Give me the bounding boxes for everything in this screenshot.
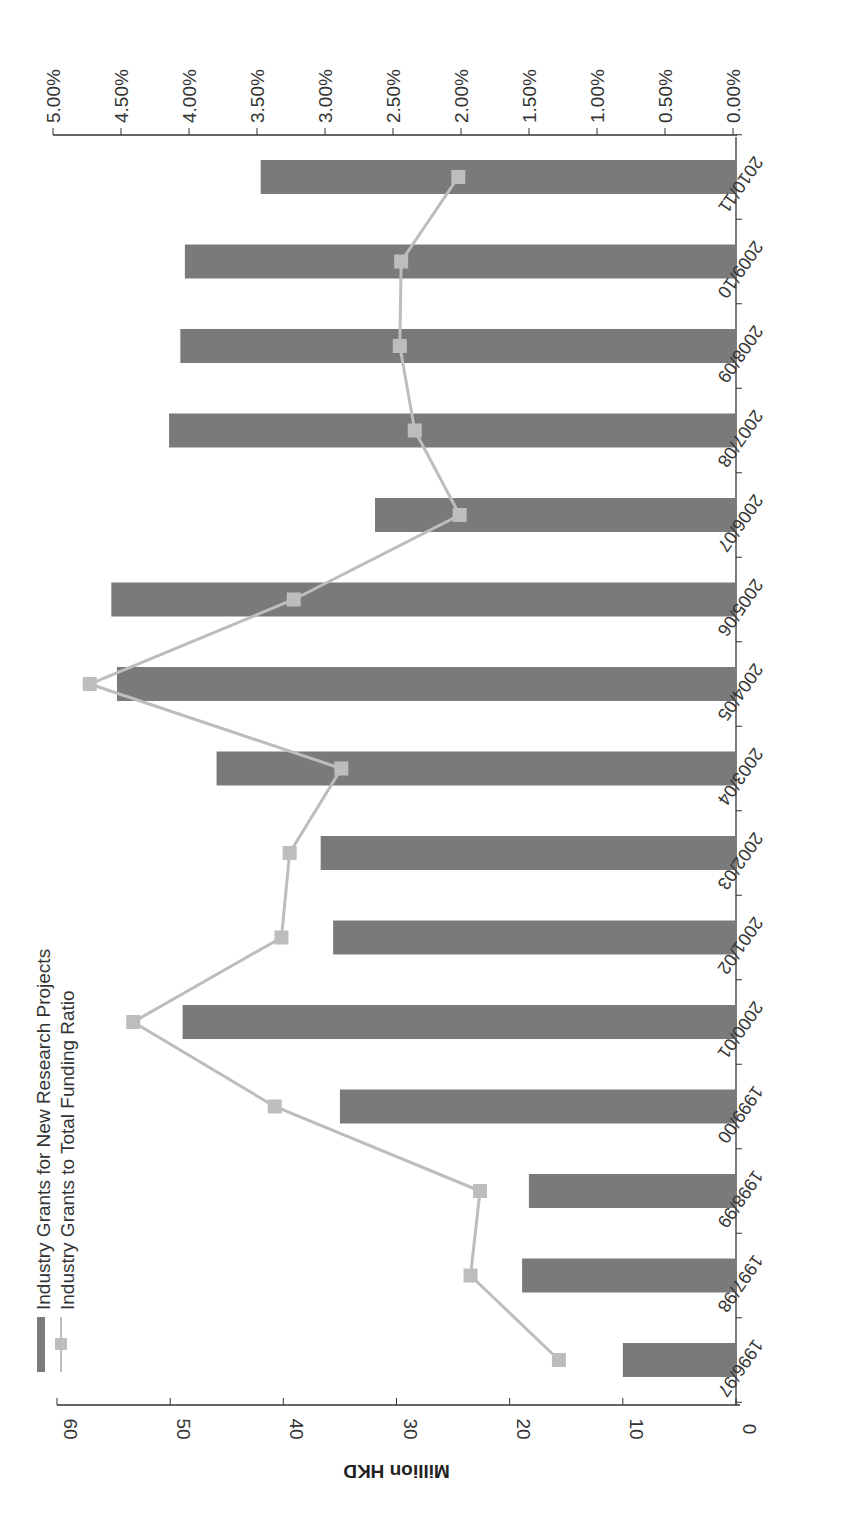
bar — [333, 921, 736, 955]
bar — [261, 160, 736, 194]
legend-marker-icon — [55, 1338, 67, 1350]
percent-tick-label: 5.00% — [43, 69, 64, 123]
value-tick-label: 30 — [400, 1418, 421, 1439]
ratio-marker — [126, 1015, 140, 1029]
ratio-marker — [283, 846, 297, 860]
ratio-marker — [464, 1269, 478, 1283]
ratio-marker — [408, 424, 422, 438]
bar — [111, 583, 736, 617]
bar — [340, 1090, 736, 1124]
percent-tick-label: 3.00% — [315, 69, 336, 123]
plot-area: 0102030405060Million HKD0.00%0.50%1.00%1… — [33, 69, 767, 1482]
ratio-marker — [268, 1100, 282, 1114]
legend-bar-swatch-icon — [37, 1317, 45, 1372]
value-tick-label: 40 — [286, 1418, 307, 1439]
ratio-marker — [394, 255, 408, 269]
ratio-marker — [453, 508, 467, 522]
ratio-marker — [393, 339, 407, 353]
ratio-marker — [552, 1353, 566, 1367]
percent-tick-label: 2.00% — [451, 69, 472, 123]
bar — [623, 1343, 736, 1377]
percent-tick-label: 1.50% — [519, 69, 540, 123]
percent-tick-label: 0.50% — [655, 69, 676, 123]
percent-tick-label: 4.00% — [179, 69, 200, 123]
value-axis-title: Million HKD — [343, 1461, 450, 1482]
legend-label-ratio: Industry Grants to Total Funding Ratio — [57, 990, 78, 1310]
chart-canvas: 0102030405060Million HKD0.00%0.50%1.00%1… — [0, 0, 854, 1515]
value-tick-label: 0 — [739, 1424, 760, 1435]
value-tick-label: 10 — [626, 1418, 647, 1439]
percent-tick-label: 3.50% — [247, 69, 268, 123]
ratio-marker — [334, 762, 348, 776]
percent-tick-label: 4.50% — [111, 69, 132, 123]
ratio-marker — [83, 677, 97, 691]
percent-tick-label: 0.00% — [723, 69, 744, 123]
bar — [375, 498, 736, 532]
bar — [185, 245, 736, 279]
value-tick-label: 50 — [173, 1418, 194, 1439]
legend-label-grants: Industry Grants for New Research Project… — [33, 949, 54, 1310]
value-tick-label: 60 — [60, 1418, 81, 1439]
bar — [117, 667, 736, 701]
bar — [169, 414, 736, 448]
percent-tick-label: 2.50% — [383, 69, 404, 123]
bar — [217, 752, 736, 786]
bar — [180, 329, 736, 363]
ratio-marker — [287, 593, 301, 607]
ratio-marker — [274, 931, 288, 945]
percent-tick-label: 1.00% — [587, 69, 608, 123]
bar — [522, 1259, 736, 1293]
ratio-marker — [473, 1184, 487, 1198]
legend: Industry Grants for New Research Project… — [33, 949, 78, 1372]
ratio-marker — [451, 170, 465, 184]
value-tick-label: 20 — [513, 1418, 534, 1439]
bar — [529, 1174, 736, 1208]
bar — [321, 836, 736, 870]
bar — [183, 1005, 736, 1039]
